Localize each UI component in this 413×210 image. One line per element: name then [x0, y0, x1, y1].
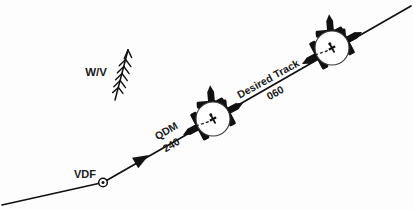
wind-velocity-label: W/V: [85, 66, 107, 78]
qdm-arrow: [132, 150, 152, 169]
aircraft-group-upper: [295, 13, 369, 77]
desired-track-value-label: 060: [264, 83, 285, 102]
diagram-canvas: W/V VDF QDM 240 Desired Track 060: [0, 0, 413, 210]
wind-velocity-arrow: [113, 50, 132, 100]
vdf-label: VDF: [74, 168, 96, 180]
vdf-station-symbol: [99, 178, 108, 187]
navigation-diagram: W/V VDF QDM 240 Desired Track 060: [0, 0, 413, 210]
